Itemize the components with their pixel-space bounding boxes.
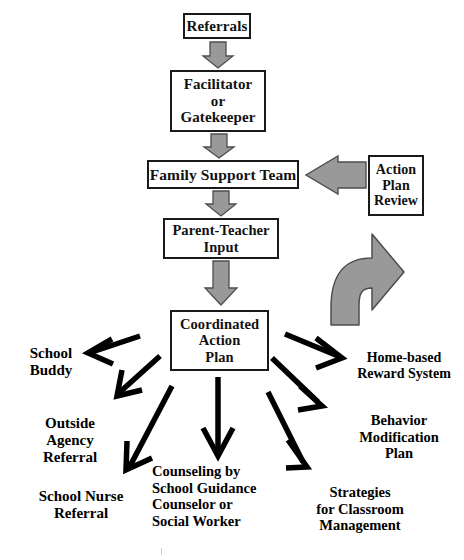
node-action-review-line-1: Action <box>376 162 416 178</box>
outcome-school-buddy-line-2: Buddy <box>8 362 94 379</box>
connector-parent-teacher-to-coordinated <box>205 261 237 305</box>
connector-coordinated-to-school-buddy <box>88 336 140 364</box>
connector-coordinated-to-action-review <box>331 234 404 325</box>
outcome-home-based-line-2: Reward System <box>350 366 458 382</box>
outcome-counseling-line-4: Social Worker <box>152 513 290 530</box>
outcome-outside-agency-referral[interactable]: Outside Agency Referral <box>28 415 112 466</box>
node-parent-teacher-input[interactable]: Parent-Teacher Input <box>163 218 279 259</box>
node-coordinated-line-2: Action <box>199 332 241 348</box>
connector-coordinated-to-outside-agency <box>117 356 160 396</box>
node-facilitator-line-2: or <box>211 93 225 110</box>
outcome-school-nurse-referral[interactable]: School Nurse Referral <box>24 488 138 522</box>
outcome-behavior-mod-line-1: Behavior <box>352 412 446 429</box>
node-coordinated-action-plan[interactable]: Coordinated Action Plan <box>170 310 269 371</box>
node-facilitator-line-1: Facilitator <box>184 76 253 93</box>
connector-action-review-to-family-support <box>306 156 366 194</box>
node-referrals[interactable]: Referrals <box>183 13 251 39</box>
connector-coordinated-to-school-nurse <box>126 386 172 470</box>
outcome-strategies-line-2: for Classroom <box>300 501 420 518</box>
outcome-counseling-line-1: Counseling by <box>152 463 290 480</box>
node-coordinated-line-3: Plan <box>205 349 234 365</box>
scan-artifact-mark <box>161 548 162 555</box>
connector-facilitator-to-family-support <box>204 134 234 158</box>
outcome-outside-agency-line-2: Agency <box>28 432 112 449</box>
outcome-home-based-line-1: Home-based <box>350 350 458 366</box>
connector-coordinated-to-home-based <box>285 334 342 368</box>
node-parent-teacher-line-2: Input <box>203 239 238 255</box>
outcome-school-buddy[interactable]: School Buddy <box>8 345 94 379</box>
outcome-counseling-line-3: Counselor or <box>152 496 290 513</box>
node-facilitator-or-gatekeeper[interactable]: Facilitator or Gatekeeper <box>170 70 266 132</box>
outcome-behavior-modification-plan[interactable]: Behavior Modification Plan <box>352 412 446 462</box>
connector-coordinated-to-behavior-mod <box>272 358 322 410</box>
outcome-school-nurse-line-1: School Nurse <box>24 488 138 505</box>
node-action-review-line-2: Plan <box>382 178 410 194</box>
connector-coordinated-to-strategies <box>268 392 307 468</box>
outcome-behavior-mod-line-2: Modification <box>352 429 446 446</box>
connector-coordinated-to-counseling <box>203 377 233 456</box>
outcome-school-nurse-line-2: Referral <box>24 505 138 522</box>
node-referrals-line-1: Referrals <box>187 18 248 35</box>
outcome-school-buddy-line-1: School <box>8 345 94 362</box>
outcome-counseling-line-2: School Guidance <box>152 480 290 497</box>
node-family-support-line-1: Family Support Team <box>150 166 297 183</box>
connector-family-support-to-parent-teacher <box>206 191 236 216</box>
outcome-behavior-mod-line-3: Plan <box>352 445 446 462</box>
connector-referrals-to-facilitator <box>203 42 233 68</box>
node-action-review-line-3: Review <box>374 193 418 209</box>
outcome-strategies-for-classroom-management[interactable]: Strategies for Classroom Management <box>300 484 420 534</box>
outcome-strategies-line-1: Strategies <box>300 484 420 501</box>
outcome-strategies-line-3: Management <box>300 517 420 534</box>
outcome-home-based-reward-system[interactable]: Home-based Reward System <box>350 350 458 382</box>
outcome-outside-agency-line-1: Outside <box>28 415 112 432</box>
node-parent-teacher-line-1: Parent-Teacher <box>172 222 269 238</box>
node-facilitator-line-3: Gatekeeper <box>180 109 255 126</box>
outcome-outside-agency-line-3: Referral <box>28 449 112 466</box>
node-coordinated-line-1: Coordinated <box>180 316 259 332</box>
node-action-plan-review[interactable]: Action Plan Review <box>368 155 424 216</box>
outcome-counseling[interactable]: Counseling by School Guidance Counselor … <box>152 463 290 529</box>
node-family-support-team[interactable]: Family Support Team <box>147 160 299 189</box>
